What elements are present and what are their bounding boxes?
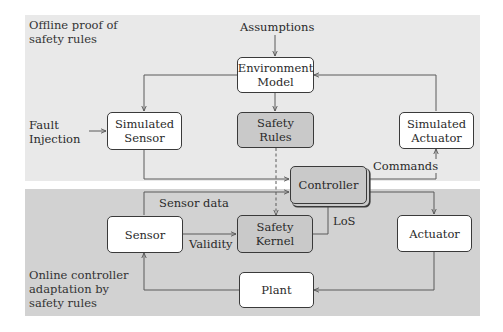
assumptions-label: Assumptions <box>240 20 314 34</box>
node-label: Actuator <box>409 227 460 241</box>
commands-label: Commands <box>372 159 439 173</box>
los-label: LoS <box>333 214 355 228</box>
node-label-line1: Simulated <box>407 117 466 131</box>
simulated-sensor-node[interactable]: SimulatedSensor <box>107 112 182 150</box>
fault-label-line1: Fault <box>29 118 80 132</box>
node-label-line2: Model <box>238 75 314 89</box>
sensor-node[interactable]: Sensor <box>107 216 183 253</box>
node-label: Sensor <box>125 228 165 242</box>
node-label-line1: Environment <box>238 61 314 75</box>
node-label-line2: Actuator <box>407 131 466 145</box>
node-label-line2: Rules <box>257 130 294 144</box>
safety-rules-node[interactable]: SafetyRules <box>237 112 314 148</box>
controller-node[interactable]: Controller <box>290 166 367 204</box>
plant-node[interactable]: Plant <box>239 272 314 308</box>
node-label: Plant <box>261 283 291 297</box>
environment-model-node[interactable]: EnvironmentModel <box>237 57 314 93</box>
sensor-data-label: Sensor data <box>159 196 229 210</box>
simulated-actuator-node[interactable]: SimulatedActuator <box>399 112 474 149</box>
fault-injection-label: Fault Injection <box>29 118 80 146</box>
validity-label: Validity <box>189 237 233 251</box>
node-label-line1: Safety <box>256 220 294 234</box>
node-label-line1: Safety <box>257 116 294 130</box>
node-label-line2: Kernel <box>256 234 294 248</box>
node-label: Controller <box>299 178 359 192</box>
safety-kernel-node[interactable]: SafetyKernel <box>237 215 313 253</box>
node-label-line1: Simulated <box>115 117 174 131</box>
fault-label-line2: Injection <box>29 132 80 146</box>
node-label-line2: Sensor <box>115 131 174 145</box>
actuator-node[interactable]: Actuator <box>397 215 472 252</box>
